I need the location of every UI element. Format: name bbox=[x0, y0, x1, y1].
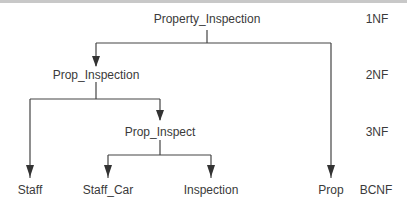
node-prop-inspection: Prop_Inspection bbox=[53, 69, 140, 81]
node-inspection: Inspection bbox=[184, 184, 239, 196]
node-property-inspection: Property_Inspection bbox=[154, 13, 261, 25]
arrowhead-staff bbox=[26, 165, 34, 177]
decomposition-diagram bbox=[0, 0, 407, 203]
node-prop-inspect: Prop_Inspect bbox=[125, 126, 196, 138]
level-label-3nf: 3NF bbox=[366, 126, 389, 138]
arrowhead-prop bbox=[327, 165, 335, 177]
arrowhead-prop-inspect bbox=[156, 110, 164, 121]
level-label-1nf: 1NF bbox=[366, 13, 389, 25]
level-label-2nf: 2NF bbox=[366, 69, 389, 81]
arrowhead-prop-inspection bbox=[92, 56, 100, 67]
arrowhead-staff-car bbox=[104, 165, 112, 177]
arrowhead-inspection bbox=[207, 165, 215, 177]
node-prop: Prop bbox=[318, 184, 343, 196]
node-staff-car: Staff_Car bbox=[83, 184, 133, 196]
level-label-bcnf: BCNF bbox=[360, 184, 393, 196]
node-staff: Staff bbox=[18, 184, 42, 196]
